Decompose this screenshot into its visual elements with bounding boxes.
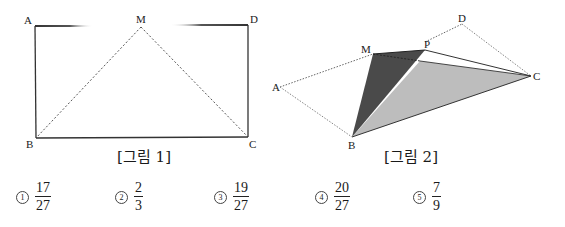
figure-2-caption: [그림 2] <box>384 150 438 165</box>
denominator: 9 <box>433 197 440 213</box>
choice-marker-3-icon: 3 <box>214 191 227 204</box>
numerator: 20 <box>334 181 350 197</box>
denominator: 27 <box>335 197 349 213</box>
choice-4-fraction: 20 27 <box>334 181 350 213</box>
fig2-label-p: P <box>424 39 430 50</box>
segment-mc <box>141 27 248 137</box>
choice-marker-4-icon: 4 <box>315 191 328 204</box>
denominator: 3 <box>135 197 142 213</box>
choice-2[interactable]: 2 2 3 <box>115 181 143 213</box>
choice-marker-5-icon: 5 <box>413 191 426 204</box>
fig1-label-c: C <box>249 139 256 150</box>
numerator: 19 <box>233 181 249 197</box>
choice-1[interactable]: 1 17 27 <box>16 181 51 213</box>
choice-marker-2-icon: 2 <box>115 191 128 204</box>
figure-2-diagram <box>280 24 531 137</box>
edge-pd <box>425 24 462 42</box>
choice-marker-1-icon: 1 <box>16 191 29 204</box>
edge-am <box>280 54 373 87</box>
choice-3-fraction: 19 27 <box>233 181 249 213</box>
edge-ab <box>35 26 36 138</box>
fig2-label-a: A <box>272 82 280 93</box>
denominator: 27 <box>234 197 248 213</box>
edge-ad-left <box>35 25 93 27</box>
numerator: 2 <box>134 181 143 197</box>
figure-1-caption: [그림 1] <box>117 150 171 165</box>
numerator: 17 <box>35 181 51 197</box>
fig2-label-m: M <box>361 44 371 55</box>
choice-5-fraction: 7 9 <box>432 181 441 213</box>
choice-4[interactable]: 4 20 27 <box>315 181 350 213</box>
edge-bc <box>36 137 248 138</box>
choice-2-fraction: 2 3 <box>134 181 143 213</box>
fig2-label-c: C <box>533 71 540 82</box>
numerator: 7 <box>432 181 441 197</box>
fig1-label-m: M <box>136 14 146 25</box>
choice-3[interactable]: 3 19 27 <box>214 181 249 213</box>
edge-ab2 <box>280 87 352 137</box>
edge-ad-right <box>170 24 248 26</box>
choice-5[interactable]: 5 7 9 <box>413 181 441 213</box>
segment-mb <box>36 27 141 138</box>
denominator: 27 <box>36 197 50 213</box>
fig2-label-b: B <box>348 140 355 151</box>
fig1-label-d: D <box>250 14 258 25</box>
fig2-label-d: D <box>458 13 466 24</box>
choice-1-fraction: 17 27 <box>35 181 51 213</box>
fig1-label-b: B <box>26 139 33 150</box>
fig1-label-a: A <box>24 15 32 26</box>
answer-choices: 1 17 27 2 2 3 3 19 27 4 20 27 5 7 9 <box>0 181 565 221</box>
